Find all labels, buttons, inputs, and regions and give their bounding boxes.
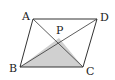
label-b: B — [9, 62, 17, 75]
parallelogram-figure: A D B C P — [0, 0, 115, 80]
shaded-triangle-pbc — [20, 38, 83, 67]
label-c: C — [86, 65, 94, 78]
label-p: P — [56, 24, 64, 37]
diagram-canvas: A D B C P — [0, 0, 115, 80]
label-a: A — [21, 10, 31, 23]
label-d: D — [100, 11, 109, 24]
